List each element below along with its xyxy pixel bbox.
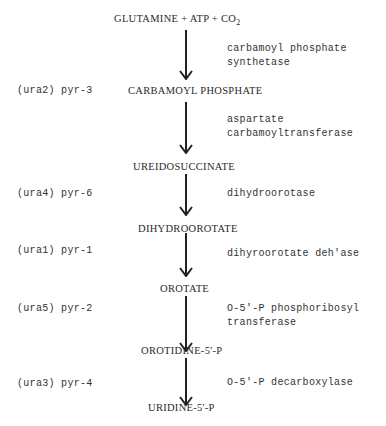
enzyme-label-3: dihydroorotase xyxy=(227,187,315,201)
enzyme-line: carbamoyl phosphate xyxy=(227,42,347,56)
enzyme-label-4: dihyroorotate deh'ase xyxy=(227,247,359,261)
start-compounds-text: GLUTAMINE + ATP + CO xyxy=(114,13,236,24)
enzyme-line: dihydroorotase xyxy=(227,187,315,201)
enzyme-line: O-5'-P phosphoribosyl xyxy=(227,302,359,316)
gene-label-5: (ura5) pyr-2 xyxy=(17,302,93,315)
enzyme-line: dihyroorotate deh'ase xyxy=(227,247,359,261)
enzyme-line: aspartate xyxy=(227,113,353,127)
arrow-down-icon xyxy=(179,102,193,154)
arrow-down-icon xyxy=(179,174,193,216)
compound-uridine-5-p: URIDINE-5'-P xyxy=(148,401,215,414)
start-compounds: GLUTAMINE + ATP + CO2 xyxy=(114,12,241,29)
enzyme-line: synthetase xyxy=(227,56,347,70)
arrow-down-icon xyxy=(179,30,193,80)
enzyme-line: O-5'-P decarboxylase xyxy=(227,376,353,390)
enzyme-label-5: O-5'-P phosphoribosyl transferase xyxy=(227,302,359,330)
enzyme-label-1: carbamoyl phosphate synthetase xyxy=(227,42,347,70)
compound-orotidine-5-p: OROTIDINE-5'-P xyxy=(141,344,222,357)
enzyme-line: transferase xyxy=(227,316,359,330)
compound-ureidosuccinate: UREIDOSUCCINATE xyxy=(133,160,235,173)
gene-label-4: (ura1) pyr-1 xyxy=(17,244,93,257)
enzyme-line: carbamoyltransferase xyxy=(227,127,353,141)
compound-orotate: OROTATE xyxy=(160,282,209,295)
gene-label-6: (ura3) pyr-4 xyxy=(17,377,93,390)
gene-label-3: (ura4) pyr-6 xyxy=(17,187,93,200)
arrow-down-icon xyxy=(179,233,193,277)
enzyme-label-2: aspartate carbamoyltransferase xyxy=(227,113,353,141)
compound-carbamoyl-phosphate: CARBAMOYL PHOSPHATE xyxy=(128,84,263,97)
enzyme-label-6: O-5'-P decarboxylase xyxy=(227,376,353,390)
gene-label-1: (ura2) pyr-3 xyxy=(17,84,93,97)
co2-subscript: 2 xyxy=(236,18,240,27)
arrow-down-icon xyxy=(179,358,193,406)
